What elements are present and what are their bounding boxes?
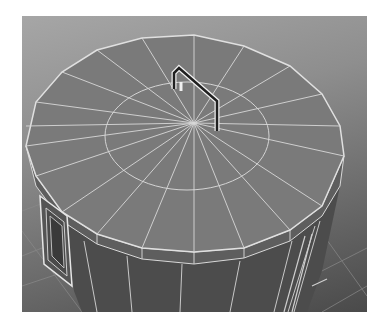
lid-top[interactable] xyxy=(26,35,344,252)
scene xyxy=(22,16,367,312)
3d-viewport[interactable] xyxy=(22,16,367,312)
